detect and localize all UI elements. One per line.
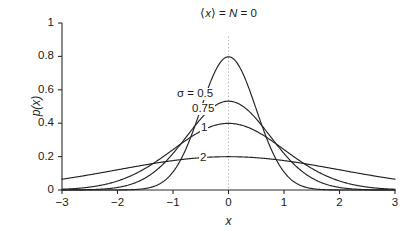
- title-equals-2: =: [237, 7, 250, 19]
- x-tick-label: 0: [209, 197, 249, 209]
- x-tick-label: −1: [153, 197, 193, 209]
- y-tick-label: 0.8: [0, 50, 54, 62]
- y-tick-label: 1: [0, 17, 54, 29]
- y-tick-label: 0.2: [0, 151, 54, 163]
- y-tick-label: 0.6: [0, 84, 54, 96]
- x-tick-label: −3: [42, 197, 82, 209]
- x-tick-label: 3: [375, 197, 415, 209]
- chart-title: ⟨x⟩ = N = 0: [159, 8, 299, 20]
- series-label-sigma-1: 1: [200, 122, 208, 134]
- x-tick-label: −2: [98, 197, 138, 209]
- series-label-sigma-2: 2: [199, 152, 207, 164]
- x-tick-label: 1: [264, 197, 304, 209]
- title-equals-1: =: [216, 7, 229, 19]
- title-value: 0: [250, 7, 256, 19]
- x-axis-title: x: [209, 215, 249, 227]
- series-label-sigma-0-5: σ = 0.5: [176, 88, 214, 100]
- y-axis-title: p(x): [30, 76, 42, 136]
- y-tick-label: 0: [0, 184, 54, 196]
- series-label-sigma-0-75: 0.75: [191, 103, 215, 115]
- gaussian-distribution-figure: 0 0.2 0.4 0.6 0.8 1 −3 −2 −1 0 1 2 3 p(x…: [0, 0, 418, 231]
- x-tick-label: 2: [320, 197, 360, 209]
- y-tick-label: 0.4: [0, 117, 54, 129]
